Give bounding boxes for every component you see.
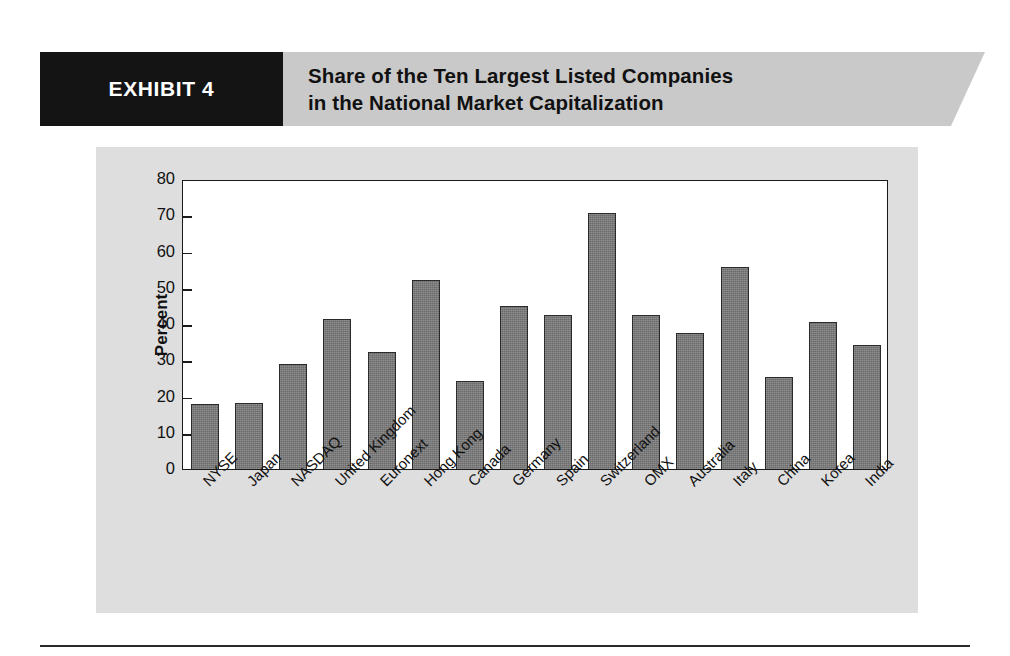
exhibit-banner: EXHIBIT 4 Share of the Ten Largest Liste… <box>40 52 985 126</box>
bar <box>632 315 660 469</box>
y-axis-tick-label: 0 <box>166 460 175 477</box>
y-axis-tick-label: 40 <box>157 315 175 332</box>
exhibit-title: Share of the Ten Largest Listed Companie… <box>308 62 733 117</box>
bar <box>323 319 351 469</box>
bar <box>853 345 881 469</box>
bar <box>412 280 440 469</box>
y-axis-tick-label: 20 <box>157 388 175 405</box>
bar <box>368 352 396 469</box>
bar <box>676 333 704 469</box>
y-axis-tick-label: 80 <box>157 170 175 187</box>
y-axis-tick-label: 10 <box>157 424 175 441</box>
bars-layer <box>183 181 887 469</box>
bar <box>279 364 307 469</box>
bar <box>765 377 793 469</box>
bar <box>588 213 616 469</box>
plot-area: Percent 01020304050607080 <box>182 180 888 470</box>
bar <box>500 306 528 469</box>
bar <box>721 267 749 469</box>
bar <box>191 404 219 469</box>
y-axis-tick-label: 50 <box>157 279 175 296</box>
y-axis-tick-label: 60 <box>157 243 175 260</box>
bottom-rule <box>40 645 970 647</box>
exhibit-tag-label: EXHIBIT 4 <box>109 77 215 101</box>
bar <box>235 403 263 469</box>
y-axis-tick-label: 70 <box>157 206 175 223</box>
bar <box>456 381 484 469</box>
bar <box>809 322 837 469</box>
bar <box>544 315 572 469</box>
chart-panel: Percent 01020304050607080 NYSEJapanNASDA… <box>96 147 918 613</box>
y-axis-tick-label: 30 <box>157 351 175 368</box>
exhibit-tag: EXHIBIT 4 <box>40 52 283 126</box>
